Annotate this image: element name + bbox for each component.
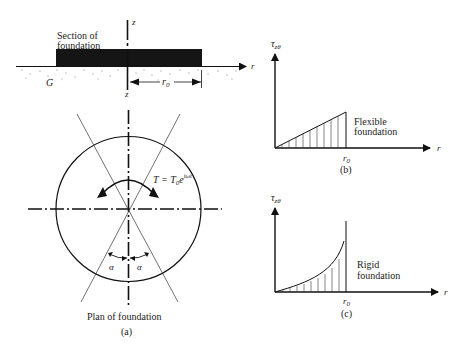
tau-label-c: τzθ bbox=[271, 192, 281, 207]
soil-texture bbox=[21, 69, 236, 80]
alpha-left-label: α bbox=[109, 262, 114, 273]
r-axis-label-a: r bbox=[251, 61, 255, 72]
rigid-stress-curve bbox=[275, 241, 344, 292]
soil-g-label: G bbox=[46, 77, 53, 88]
foundation-plan bbox=[28, 110, 222, 308]
z-bottom-label: z bbox=[125, 89, 129, 100]
flexible-stress-chart bbox=[275, 54, 430, 148]
flexible-label-line2: foundation bbox=[354, 126, 397, 137]
plan-label: Plan of foundation bbox=[87, 311, 161, 322]
rigid-label-line2: foundation bbox=[357, 270, 400, 281]
linear-stress-line bbox=[275, 112, 346, 148]
caption-a: (a) bbox=[121, 326, 132, 337]
section-label-line2: foundation bbox=[57, 40, 100, 51]
foundation-block bbox=[56, 49, 202, 66]
radius-r0-label: r0 bbox=[162, 76, 169, 91]
tau-label-b: τzθ bbox=[271, 38, 281, 53]
z-top-label: z bbox=[132, 17, 136, 28]
caption-c: (c) bbox=[341, 308, 352, 319]
diagram-canvas bbox=[0, 0, 454, 348]
radial-line-1 bbox=[77, 114, 178, 302]
torque-label: T = T0eiωt bbox=[153, 170, 192, 189]
r-axis-label-b: r bbox=[437, 143, 441, 154]
caption-b: (b) bbox=[340, 164, 352, 175]
alpha-right-label: α bbox=[137, 262, 142, 273]
rigid-label-line1: Rigid bbox=[357, 259, 379, 270]
radial-line-2 bbox=[81, 114, 180, 302]
r-axis-label-c: r bbox=[444, 287, 448, 298]
